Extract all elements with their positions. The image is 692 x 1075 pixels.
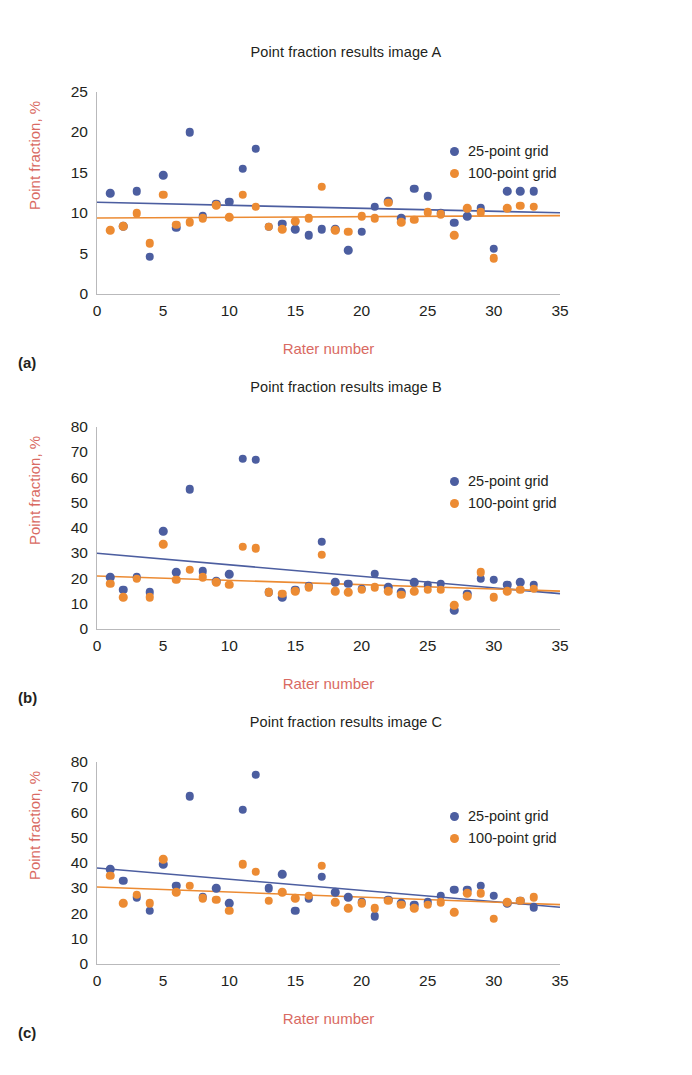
data-point: [185, 881, 194, 890]
data-point: [503, 204, 512, 213]
data-point: [185, 565, 194, 574]
y-axis-label: Point fraction, %: [26, 61, 43, 251]
y-tick-label: 80: [42, 418, 88, 436]
data-point: [132, 209, 141, 218]
x-tick-label: 10: [209, 972, 249, 990]
y-tick-label: 70: [42, 443, 88, 461]
data-point: [106, 871, 115, 880]
data-point: [119, 593, 128, 602]
data-point: [463, 889, 472, 898]
data-point: [119, 899, 128, 908]
data-point: [344, 904, 353, 913]
x-axis-line: [96, 964, 560, 965]
data-point: [185, 792, 194, 801]
data-point: [490, 576, 499, 585]
data-point: [371, 570, 380, 579]
legend-marker-blue-icon: [450, 147, 459, 156]
data-point: [344, 588, 353, 597]
data-point: [410, 904, 419, 913]
data-point: [278, 225, 287, 234]
legend-item-25point: 25-point grid: [450, 140, 557, 162]
y-tick-label: 50: [42, 494, 88, 512]
data-point: [423, 192, 432, 201]
data-point: [132, 187, 141, 196]
data-point: [384, 587, 393, 596]
plot-area: [97, 427, 560, 629]
chart-panel-c: Point fraction results image C Point fra…: [0, 710, 692, 1045]
data-point: [304, 231, 313, 240]
data-point: [397, 218, 406, 227]
data-point: [251, 456, 260, 465]
data-point: [304, 892, 313, 901]
data-point: [516, 187, 525, 196]
data-point: [344, 893, 353, 902]
data-point: [119, 876, 128, 885]
data-point: [265, 884, 274, 893]
data-point: [423, 586, 432, 595]
x-axis-label: Rater number: [97, 675, 560, 692]
data-point: [344, 228, 353, 237]
data-point: [318, 861, 327, 870]
panel-letter: (b): [18, 689, 37, 706]
data-point: [371, 904, 380, 913]
data-point: [212, 884, 221, 893]
panel-letter: (c): [18, 1024, 36, 1041]
data-point: [490, 914, 499, 923]
data-point: [318, 182, 327, 191]
x-tick-label: 25: [408, 302, 448, 320]
trend-line: [97, 216, 560, 218]
data-point: [450, 601, 459, 610]
x-tick-label: 25: [408, 637, 448, 655]
data-point: [410, 215, 419, 224]
data-point: [503, 587, 512, 596]
data-point: [371, 912, 380, 921]
y-tick-label: 60: [42, 469, 88, 487]
data-point: [516, 586, 525, 595]
data-point: [331, 578, 340, 587]
data-point: [172, 576, 181, 585]
data-point: [423, 208, 432, 217]
legend-item-100point: 100-point grid: [450, 827, 557, 849]
data-point: [132, 890, 141, 899]
data-point: [476, 208, 485, 217]
data-point: [185, 218, 194, 227]
data-point: [357, 212, 366, 221]
x-tick-label: 35: [540, 972, 580, 990]
data-point: [278, 870, 287, 879]
data-point: [450, 231, 459, 240]
data-point: [199, 894, 208, 903]
data-point: [225, 907, 234, 916]
data-point: [357, 899, 366, 908]
y-tick-label: 60: [42, 804, 88, 822]
data-point: [423, 900, 432, 909]
data-point: [397, 900, 406, 909]
data-point: [212, 895, 221, 904]
data-point: [119, 222, 128, 231]
legend-item-25point: 25-point grid: [450, 805, 557, 827]
y-tick-label: 30: [42, 544, 88, 562]
data-point: [251, 868, 260, 877]
data-point: [251, 544, 260, 553]
legend: 25-point grid 100-point grid: [450, 140, 557, 184]
data-point: [265, 588, 274, 597]
data-point: [344, 579, 353, 588]
data-point: [437, 210, 446, 219]
data-point: [463, 592, 472, 601]
data-point: [251, 202, 260, 211]
x-tick-label: 15: [275, 302, 315, 320]
data-point: [251, 144, 260, 153]
data-point: [331, 898, 340, 907]
data-point: [132, 574, 141, 583]
data-point: [265, 223, 274, 232]
legend-label: 25-point grid: [468, 808, 549, 824]
legend-marker-blue-icon: [450, 477, 459, 486]
data-point: [291, 894, 300, 903]
legend-item-100point: 100-point grid: [450, 492, 557, 514]
y-tick-label: 0: [42, 955, 88, 973]
data-point: [384, 897, 393, 906]
legend-item-25point: 25-point grid: [450, 470, 557, 492]
data-point: [146, 907, 155, 916]
y-tick-label: 10: [42, 930, 88, 948]
x-tick-label: 0: [77, 302, 117, 320]
data-point: [225, 570, 234, 579]
